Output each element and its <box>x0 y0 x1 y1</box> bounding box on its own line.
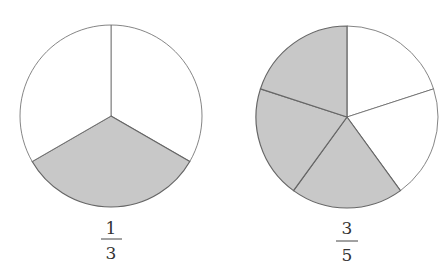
three-fifths-circle <box>256 26 438 208</box>
fraction-one-third: 1 3 <box>101 218 122 263</box>
denominator: 3 <box>106 243 117 263</box>
numerator: 1 <box>106 218 117 238</box>
fraction-three-fifths: 3 5 <box>336 218 358 265</box>
numerator: 3 <box>342 218 353 238</box>
denominator: 5 <box>342 245 353 265</box>
one-third-circle <box>20 25 202 207</box>
fraction-diagram: 1 3 3 5 <box>0 0 445 280</box>
